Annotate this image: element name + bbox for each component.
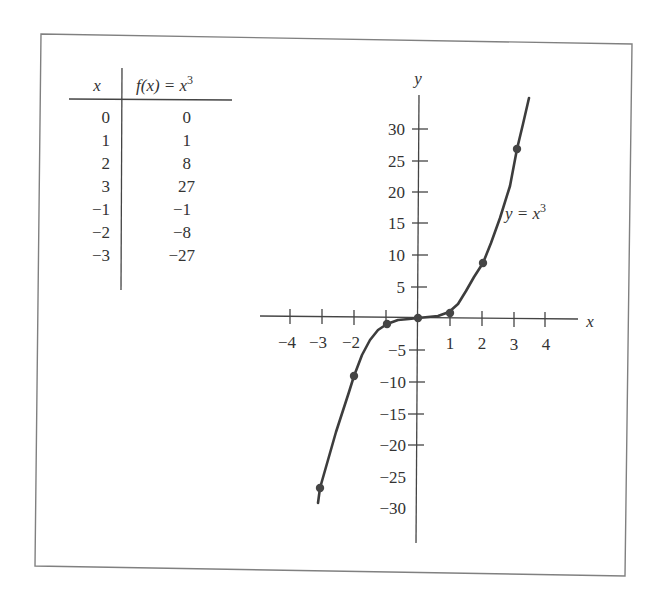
table-cell-fx: −1 [173, 200, 191, 219]
table-cell-x: −2 [92, 223, 110, 242]
table-divider-horizontal [69, 99, 232, 100]
y-tick-label: −15 [379, 405, 406, 424]
table-cell-fx: −8 [173, 223, 191, 242]
table-divider-vertical [121, 68, 122, 290]
x-tick-label: 4 [542, 335, 551, 354]
table-cell-x: 0 [102, 108, 111, 127]
data-point [383, 320, 391, 328]
cubic-function-figure: x f(x) = x3 0 0 1 1 2 8 3 27 −1 −1 −2 −8… [0, 0, 662, 604]
curve-label: y = x3 [503, 201, 546, 223]
y-tick-label: 30 [388, 120, 405, 139]
x-axis-label: x [585, 312, 594, 331]
figure-frame [35, 34, 632, 576]
table-cell-x: 3 [102, 177, 111, 196]
table-header-fx: f(x) = x3 [136, 73, 193, 95]
x-axis-tick-labels: −4 −3 −2 1 2 3 4 [278, 333, 551, 354]
data-point [479, 259, 487, 267]
table-cell-fx: 0 [183, 108, 192, 127]
x-tick-label: −2 [342, 333, 360, 352]
table-header-fx-exponent: 3 [187, 73, 193, 87]
table-cell-x: 2 [102, 154, 111, 173]
cubic-graph: x y −4 −3 −2 1 2 3 4 [260, 69, 594, 543]
y-tick-label: −10 [379, 373, 406, 392]
table-cell-x: −3 [92, 246, 110, 265]
y-tick-label: 15 [388, 214, 405, 233]
y-tick-label: −5 [388, 341, 406, 360]
table-header-x: x [92, 76, 101, 95]
data-point [414, 314, 422, 322]
table-cell-x: 1 [102, 131, 111, 150]
curve-label-text: y = x [503, 204, 541, 223]
curve-label-exponent: 3 [540, 201, 546, 215]
table-rows: 0 0 1 1 2 8 3 27 −1 −1 −2 −8 −3 −27 [92, 108, 196, 265]
data-point [316, 484, 324, 492]
y-tick-label: −30 [379, 499, 406, 518]
x-tick-label: 3 [510, 335, 519, 354]
y-tick-label: 20 [388, 183, 405, 202]
x-tick-label: −4 [278, 333, 297, 352]
table-cell-fx: 1 [183, 131, 192, 150]
table-cell-x: −1 [92, 200, 110, 219]
y-tick-label: 25 [388, 152, 405, 171]
y-tick-label: 10 [388, 246, 405, 265]
y-tick-label: −20 [379, 436, 406, 455]
value-table: x f(x) = x3 0 0 1 1 2 8 3 27 −1 −1 −2 −8… [69, 68, 232, 290]
table-cell-fx: 8 [183, 154, 192, 173]
x-tick-label: 2 [478, 334, 487, 353]
y-tick-label: 5 [397, 278, 406, 297]
y-tick-label: −25 [379, 468, 406, 487]
data-point [350, 372, 358, 380]
data-point [446, 309, 454, 317]
data-point [513, 145, 521, 153]
table-header-fx-text: f(x) = x [136, 76, 188, 95]
x-tick-label: −3 [309, 333, 327, 352]
y-axis-label: y [412, 69, 422, 88]
cubic-curve [318, 98, 529, 503]
table-cell-fx: 27 [178, 177, 196, 196]
table-cell-fx: −27 [168, 246, 195, 265]
x-tick-label: 1 [446, 334, 455, 353]
